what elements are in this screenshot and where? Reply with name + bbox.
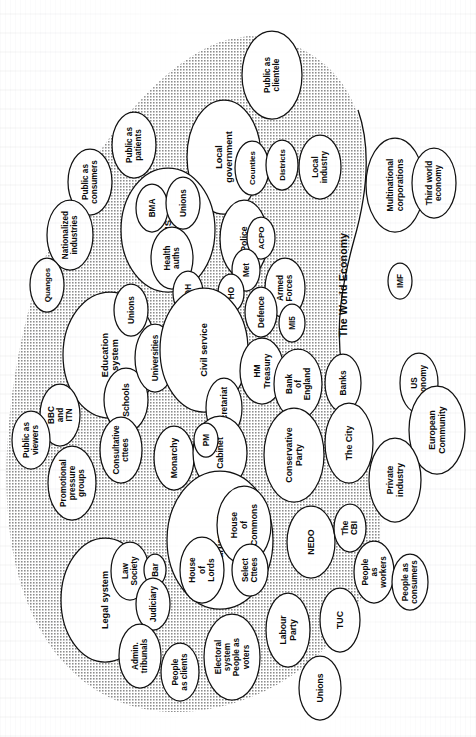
node-conservative-party[interactable]: ConservativeParty: [264, 408, 324, 502]
node-mi5[interactable]: MI5: [279, 304, 305, 342]
node-label: MI5: [288, 316, 297, 330]
node-label: Unions: [315, 673, 325, 702]
node-label: Districts: [278, 149, 287, 181]
node-label: ArmedForces: [276, 274, 294, 301]
node-label: PM: [202, 434, 211, 446]
node-label: Admin.tribunals: [131, 638, 149, 673]
node-consultative-cttees[interactable]: Consultativecttees: [100, 417, 142, 483]
node-public-as-clientele[interactable]: Public asclientele: [242, 31, 302, 119]
node-label: Public asviewers: [22, 422, 40, 458]
node-label: Healthauths: [163, 245, 181, 270]
node-tuc[interactable]: TUC: [320, 588, 360, 652]
node-people-as-workers[interactable]: Peopleasworkers: [354, 541, 394, 603]
node-monarchy[interactable]: Monarchy: [154, 426, 194, 490]
node-labour-party[interactable]: LabourParty: [266, 593, 310, 667]
node-label: Civil service: [199, 323, 209, 377]
node-label: BBCandITN: [47, 406, 74, 424]
node-label: Public aspatients: [125, 127, 143, 163]
node-label: Quangos: [43, 267, 52, 302]
node-public-as-patients[interactable]: Public aspatients: [112, 112, 156, 178]
node-label: Bar: [151, 562, 160, 576]
node-third-world-economy[interactable]: Third worldeconomy: [412, 148, 456, 218]
node-people-as-consumers[interactable]: People asconsumers: [392, 554, 428, 610]
node-label: Unions: [179, 189, 188, 217]
node-private-industry[interactable]: Privateindustry: [369, 438, 421, 522]
node-label: SelectCttees: [241, 557, 259, 582]
node-defence[interactable]: Defence: [245, 287, 277, 337]
node-label: Nationalizedindustries: [61, 211, 79, 259]
node-local-industry[interactable]: Localindustry: [299, 135, 341, 199]
node-unions-education[interactable]: Unions: [114, 284, 148, 336]
node-label: Peopleas clients: [171, 653, 189, 691]
node-label: LabourParty: [278, 615, 298, 645]
node-label: Public asclientele: [263, 57, 281, 93]
node-nedo[interactable]: NEDO: [287, 506, 335, 578]
world-economy-label: The World Economy: [337, 233, 349, 338]
node-counties[interactable]: Counties: [235, 141, 269, 195]
node-label: Met: [242, 263, 251, 277]
node-label: BMA: [148, 199, 157, 218]
node-label: Public asconsumers: [81, 160, 99, 204]
node-admin-tribunals[interactable]: Admin.tribunals: [119, 624, 161, 688]
node-judiciary[interactable]: Judiciary: [136, 578, 170, 630]
diagram-svg: Public asclienteleLocalgovernmentCountie…: [0, 0, 476, 737]
node-label: Judiciary: [149, 586, 158, 622]
node-people-as-clients[interactable]: Peopleas clients: [161, 643, 199, 701]
node-label: Multinationalcorporations: [385, 159, 405, 212]
node-label: The City: [344, 426, 354, 461]
node-label: Unions: [127, 296, 136, 324]
node-label: Defence: [257, 296, 266, 328]
svg-text:The World Economy: The World Economy: [337, 233, 349, 338]
node-label: People asconsumers: [401, 560, 419, 604]
node-electoral-system-people-as-voters[interactable]: ElectoralsystemPeople asvoters: [204, 614, 260, 700]
node-label: EuropeanCommunity: [427, 406, 447, 453]
node-banks[interactable]: Banks: [325, 354, 361, 412]
node-unions-bottom[interactable]: Unions: [299, 656, 341, 720]
node-pm[interactable]: PM: [194, 423, 218, 457]
node-the-city[interactable]: The City: [325, 403, 373, 483]
node-the-cbi[interactable]: TheCBI: [334, 504, 366, 552]
diagram-canvas: Public asclienteleLocalgovernmentCountie…: [0, 0, 476, 737]
node-label: Banks: [338, 370, 348, 395]
node-districts[interactable]: Districts: [266, 140, 298, 190]
node-label: IMF: [396, 274, 405, 288]
node-label: Monarchy: [169, 437, 179, 478]
node-promotional-pressure-groups[interactable]: Promotionalpressuregroups: [48, 446, 96, 520]
node-label: NEDO: [306, 529, 316, 555]
node-label: Third worldeconomy: [425, 161, 443, 206]
node-label: Universities: [151, 334, 160, 381]
node-label: TheCBI: [341, 520, 359, 535]
node-quangos[interactable]: Quangos: [30, 258, 64, 312]
node-house-of-lords[interactable]: HouseofLords: [180, 537, 224, 603]
node-label: Schools: [121, 383, 131, 417]
node-label: TUC: [335, 610, 345, 629]
node-imf[interactable]: IMF: [388, 263, 412, 299]
node-unions-nhs[interactable]: Unions: [166, 177, 200, 229]
node-label: Legal system: [100, 571, 110, 629]
node-label: ACPO: [257, 226, 266, 249]
node-bma[interactable]: BMA: [136, 184, 168, 232]
node-label: Privateindustry: [385, 463, 405, 497]
node-public-as-viewers[interactable]: Public asviewers: [12, 411, 50, 469]
node-select-cttees[interactable]: SelectCttees: [232, 544, 268, 596]
node-label: Counties: [248, 151, 257, 185]
